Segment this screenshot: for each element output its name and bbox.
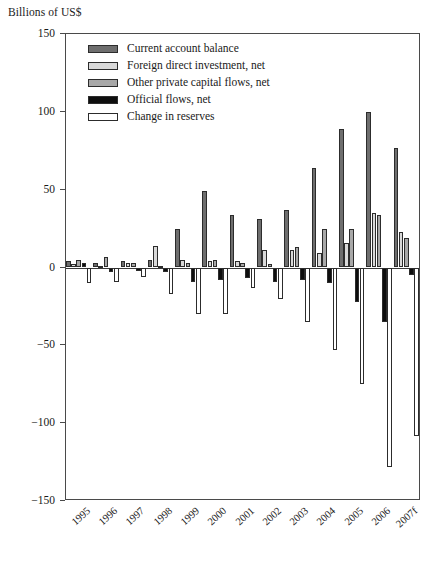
zero-line xyxy=(66,268,419,269)
x-tick-label: 2004 xyxy=(305,505,338,536)
y-tick-mark xyxy=(60,344,65,345)
x-tick-label: 2007f xyxy=(387,505,420,536)
bar xyxy=(404,238,409,268)
x-tick-label: 1999 xyxy=(169,505,202,536)
bar xyxy=(360,268,365,385)
bar xyxy=(295,247,300,267)
bar xyxy=(196,268,201,315)
y-tick-label: 50 xyxy=(0,183,55,195)
chart-figure: Billions of US$ 150100500−50−100−150 199… xyxy=(0,0,430,567)
bar xyxy=(366,112,371,268)
bar xyxy=(273,268,278,282)
bar xyxy=(114,268,119,282)
legend-swatch-icon xyxy=(88,45,118,53)
x-tick-label: 1996 xyxy=(87,505,120,536)
bar xyxy=(175,229,180,268)
chart-legend: Current account balanceForeign direct in… xyxy=(88,40,328,125)
bar xyxy=(312,168,317,268)
bar xyxy=(191,268,196,282)
bar xyxy=(317,253,322,267)
bar xyxy=(344,243,349,268)
legend-label: Change in reserves xyxy=(127,111,215,123)
bar xyxy=(126,263,131,268)
bar xyxy=(268,264,273,267)
bar xyxy=(349,229,354,268)
x-tick-label: 2002 xyxy=(251,505,284,536)
bar xyxy=(131,263,136,268)
bar xyxy=(290,250,295,267)
bar xyxy=(305,268,310,322)
bar xyxy=(387,268,392,467)
x-tick-label: 2006 xyxy=(360,505,393,536)
bar xyxy=(141,268,146,277)
bar xyxy=(235,261,240,267)
bar xyxy=(240,263,245,268)
legend-swatch-icon xyxy=(88,79,118,87)
bar xyxy=(257,219,262,267)
bar xyxy=(104,257,109,268)
bar xyxy=(202,191,207,267)
bar xyxy=(300,268,305,280)
legend-item: Foreign direct investment, net xyxy=(88,57,328,74)
bar xyxy=(218,268,223,280)
bar xyxy=(284,210,289,268)
y-tick-label: 150 xyxy=(0,27,55,39)
bar xyxy=(251,268,256,288)
y-tick-mark xyxy=(60,33,65,34)
x-tick-label: 2000 xyxy=(196,505,229,536)
bar xyxy=(66,261,71,267)
legend-item: Current account balance xyxy=(88,40,328,57)
y-tick-mark xyxy=(60,422,65,423)
bar xyxy=(262,250,267,267)
y-axis-title: Billions of US$ xyxy=(8,6,82,18)
legend-item: Change in reserves xyxy=(88,108,328,125)
x-tick-label: 2003 xyxy=(278,505,311,536)
bar xyxy=(158,266,163,268)
bar xyxy=(121,261,126,267)
bar xyxy=(71,264,76,267)
bar xyxy=(98,266,103,268)
bar xyxy=(136,268,141,271)
bar xyxy=(230,215,235,268)
bar xyxy=(76,260,81,268)
x-tick-label: 2005 xyxy=(332,505,365,536)
bar xyxy=(169,268,174,294)
y-tick-mark xyxy=(60,267,65,268)
bar xyxy=(223,268,228,315)
x-tick-label: 1997 xyxy=(114,505,147,536)
bar xyxy=(394,148,399,268)
bar xyxy=(339,129,344,268)
y-tick-mark xyxy=(60,111,65,112)
y-tick-label: −150 xyxy=(0,494,55,506)
legend-label: Official flows, net xyxy=(127,94,211,106)
bar xyxy=(245,268,250,279)
legend-item: Official flows, net xyxy=(88,91,328,108)
legend-label: Current account balance xyxy=(127,43,239,55)
bar xyxy=(153,246,158,268)
legend-label: Foreign direct investment, net xyxy=(127,60,265,72)
legend-swatch-icon xyxy=(88,113,118,121)
bar xyxy=(409,268,414,276)
x-tick-label: 2001 xyxy=(223,505,256,536)
bar xyxy=(93,263,98,268)
y-tick-label: −100 xyxy=(0,416,55,428)
bar xyxy=(377,215,382,268)
legend-swatch-icon xyxy=(88,96,118,104)
legend-item: Other private capital flows, net xyxy=(88,74,328,91)
bar xyxy=(186,263,191,268)
bar xyxy=(355,268,360,302)
bar xyxy=(382,268,387,322)
bar xyxy=(208,261,213,267)
bar xyxy=(414,268,419,436)
y-tick-label: 0 xyxy=(0,261,55,273)
y-tick-label: −50 xyxy=(0,338,55,350)
bar xyxy=(327,268,332,284)
bar xyxy=(148,260,153,268)
bar xyxy=(372,213,377,267)
y-tick-label: 100 xyxy=(0,105,55,117)
x-tick-label: 1998 xyxy=(141,505,174,536)
bar xyxy=(399,232,404,268)
x-tick-label: 1995 xyxy=(59,505,92,536)
bar xyxy=(213,260,218,268)
bar xyxy=(322,229,327,268)
